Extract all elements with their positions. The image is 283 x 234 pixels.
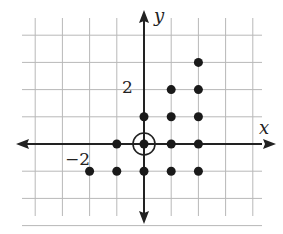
lattice-point <box>194 140 203 149</box>
lattice-point <box>194 58 203 67</box>
lattice-point <box>167 140 176 149</box>
x-axis-right-arrow-icon <box>263 139 276 149</box>
lattice-point <box>167 112 176 121</box>
lattice-point <box>140 112 149 121</box>
coordinate-grid: x y 2 −2 <box>0 0 283 234</box>
lattice-point <box>85 167 94 176</box>
lattice-point <box>140 140 149 149</box>
grid-lines <box>22 18 262 226</box>
x-axis-label: x <box>259 117 269 138</box>
lattice-point <box>167 85 176 94</box>
lattice-point <box>194 167 203 176</box>
lattice-point <box>112 167 121 176</box>
lattice-point <box>194 112 203 121</box>
y-axis-label: y <box>153 5 165 26</box>
lattice-point <box>140 167 149 176</box>
x-tick-label: −2 <box>65 149 90 169</box>
lattice-point <box>194 85 203 94</box>
lattice-point <box>167 167 176 176</box>
lattice-point <box>112 140 121 149</box>
y-tick-label: 2 <box>122 77 133 97</box>
